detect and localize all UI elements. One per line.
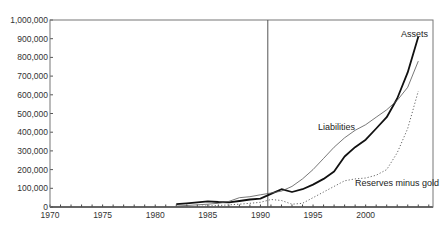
series-label-assets: Assets — [401, 29, 429, 39]
y-tick-label: 1,000,000 — [10, 15, 48, 25]
y-tick-label: 200,000 — [17, 165, 48, 175]
series-labels: AssetsLiabilitiesReserves minus gold — [318, 29, 439, 188]
y-tick-label: 500,000 — [17, 109, 48, 119]
y-axis: 0100,000200,000300,000400,000500,000600,… — [10, 15, 53, 212]
y-tick-label: 100,000 — [17, 183, 48, 193]
y-tick-label: 900,000 — [17, 34, 48, 44]
y-tick-label: 400,000 — [17, 127, 48, 137]
series-label-reserves-minus-gold: Reserves minus gold — [355, 178, 439, 188]
y-tick-label: 700,000 — [17, 71, 48, 81]
series-label-liabilities: Liabilities — [318, 122, 356, 132]
line-chart: 0100,000200,000300,000400,000500,000600,… — [0, 0, 447, 230]
x-tick-label: 1975 — [93, 210, 112, 220]
x-tick-label: 1995 — [304, 210, 323, 220]
series-reserves-minus-gold-line — [176, 91, 418, 207]
y-tick-label: 600,000 — [17, 90, 48, 100]
x-tick-label: 1970 — [41, 210, 60, 220]
x-tick-label: 1990 — [251, 210, 270, 220]
y-tick-label: 800,000 — [17, 52, 48, 62]
y-tick-label: 300,000 — [17, 146, 48, 156]
x-tick-label: 2000 — [356, 210, 375, 220]
x-tick-label: 1980 — [146, 210, 165, 220]
x-tick-label: 1985 — [198, 210, 217, 220]
